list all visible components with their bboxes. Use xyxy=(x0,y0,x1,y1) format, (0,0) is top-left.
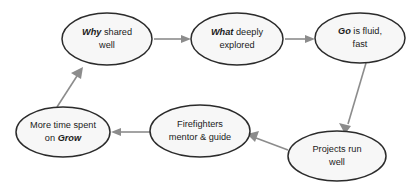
node-why-shared-well-keyword: Why xyxy=(82,27,102,37)
node-go-is-fluid-fast-keyword: Go xyxy=(338,26,351,36)
node-why-shared-well[interactable]: Why shared well xyxy=(62,13,152,65)
node-why-shared-well-line1-rest: shared xyxy=(101,27,132,37)
node-firefighters-mentor-guide[interactable]: Firefighters mentor & guide xyxy=(150,105,250,157)
node-why-shared-well-line1: Why shared xyxy=(82,27,132,37)
edge-firefighters-to-grow xyxy=(111,128,150,136)
node-more-time-spent-on-grow-line2: on Grow xyxy=(45,133,82,143)
edge-why-to-what xyxy=(154,35,191,43)
node-go-is-fluid-fast-shape[interactable] xyxy=(315,13,405,63)
node-more-time-spent-on-grow-line2-prefix: on xyxy=(45,133,58,143)
diagram-canvas: Why shared well What deeply explored Go … xyxy=(0,0,419,194)
node-firefighters-mentor-guide-line2: mentor & guide xyxy=(169,132,231,142)
node-more-time-spent-on-grow-line1: More time spent xyxy=(30,120,96,130)
node-more-time-spent-on-grow[interactable]: More time spent on Grow xyxy=(16,107,110,157)
edge-why-to-what-arrowhead xyxy=(181,35,191,43)
node-what-deeply-explored-line2: explored xyxy=(219,40,254,50)
edge-firefighters-to-grow-arrowhead xyxy=(111,128,121,136)
edge-go-to-projects-line xyxy=(348,63,366,124)
node-more-time-spent-on-grow-keyword: Grow xyxy=(58,133,82,143)
node-what-deeply-explored-shape[interactable] xyxy=(191,13,283,65)
edge-what-to-go xyxy=(285,35,315,43)
node-firefighters-mentor-guide-shape[interactable] xyxy=(150,105,250,157)
node-go-is-fluid-fast-line2: fast xyxy=(353,39,368,49)
node-what-deeply-explored-keyword: What xyxy=(211,27,234,37)
node-projects-run-well-line2: well xyxy=(328,157,345,167)
edge-projects-to-firefighters-line xyxy=(256,138,288,150)
node-what-deeply-explored[interactable]: What deeply explored xyxy=(191,13,283,65)
node-go-is-fluid-fast-line1: Go is fluid, xyxy=(338,26,382,36)
node-more-time-spent-on-grow-shape[interactable] xyxy=(16,107,110,157)
edge-grow-to-why-line xyxy=(57,76,77,107)
node-go-is-fluid-fast-line1-rest: is fluid, xyxy=(351,26,382,36)
node-firefighters-mentor-guide-line1: Firefighters xyxy=(177,119,223,129)
node-why-shared-well-shape[interactable] xyxy=(62,13,152,65)
node-why-shared-well-line2: well xyxy=(98,40,115,50)
edge-projects-to-firefighters xyxy=(247,131,288,150)
node-what-deeply-explored-line1: What deeply xyxy=(211,27,263,37)
edge-go-to-projects xyxy=(339,63,366,134)
cycle-flowchart: Why shared well What deeply explored Go … xyxy=(0,0,419,194)
node-projects-run-well-shape[interactable] xyxy=(288,131,386,181)
node-go-is-fluid-fast[interactable]: Go is fluid, fast xyxy=(315,13,405,63)
node-projects-run-well-line1: Projects run xyxy=(312,144,361,154)
edge-what-to-go-arrowhead xyxy=(305,35,315,43)
node-what-deeply-explored-line1-rest: deeply xyxy=(233,27,263,37)
node-projects-run-well[interactable]: Projects run well xyxy=(288,131,386,181)
edge-grow-to-why xyxy=(57,67,83,107)
